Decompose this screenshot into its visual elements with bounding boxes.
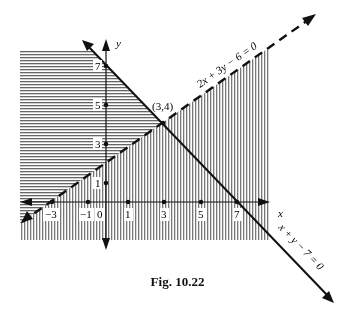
x-axis-label: x xyxy=(277,207,283,219)
svg-text:−1: −1 xyxy=(80,208,92,220)
figure-caption: Fig. 10.22 xyxy=(0,274,355,290)
svg-text:5: 5 xyxy=(198,208,204,220)
intersection-label: (3,4) xyxy=(152,100,173,113)
svg-text:−3: −3 xyxy=(45,208,57,220)
svg-text:3: 3 xyxy=(95,138,101,150)
y-axis-label: y xyxy=(115,37,121,49)
svg-text:3: 3 xyxy=(161,208,167,220)
intersection-point xyxy=(161,121,166,126)
svg-text:1: 1 xyxy=(95,177,101,189)
arrow-down-icon xyxy=(102,238,110,250)
svg-text:7: 7 xyxy=(95,60,101,72)
svg-text:1: 1 xyxy=(125,208,131,220)
svg-text:7: 7 xyxy=(234,208,240,220)
solid-line-label: x + y − 7 = 0 xyxy=(276,220,327,272)
arrow-icon xyxy=(302,14,316,26)
svg-text:5: 5 xyxy=(95,99,101,111)
svg-text:0: 0 xyxy=(97,208,103,220)
arrow-up-icon xyxy=(102,39,110,51)
